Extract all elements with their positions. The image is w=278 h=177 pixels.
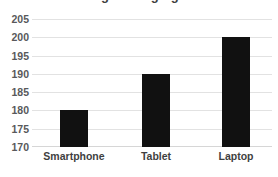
x-axis: Smartphone Tablet Laptop: [32, 150, 272, 170]
bar-tablet: [142, 74, 170, 147]
x-tick-label-laptop: Laptop: [219, 150, 254, 163]
y-axis: 205 200 195 190 185 180 175 170: [0, 19, 29, 147]
x-tick-label-tablet: Tablet: [141, 150, 171, 163]
y-tick-label: 205: [1, 14, 29, 25]
y-tick-label: 175: [1, 123, 29, 134]
y-tick-label: 180: [1, 105, 29, 116]
y-tick-label: 190: [1, 69, 29, 80]
bar-chart: Average Charging Time 205 200 195 190 18…: [0, 0, 278, 177]
x-tick-label-smartphone: Smartphone: [43, 150, 104, 163]
y-tick-label: 195: [1, 50, 29, 61]
y-tick-label: 185: [1, 87, 29, 98]
plot-area: [32, 19, 272, 147]
bar-laptop: [222, 37, 250, 147]
y-tick-label: 170: [1, 142, 29, 153]
chart-title: Average Charging Time: [0, 0, 278, 3]
bar-smartphone: [60, 110, 88, 147]
gridline: [32, 19, 272, 20]
y-tick-label: 200: [1, 32, 29, 43]
